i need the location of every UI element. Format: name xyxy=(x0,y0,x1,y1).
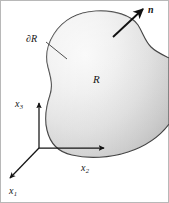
boundary-label: ∂R xyxy=(26,34,37,44)
axis-label-x3-base: x xyxy=(15,98,19,109)
axis-label-x1: x1 xyxy=(9,186,17,196)
axis-label-x3: x3 xyxy=(15,99,23,109)
region-blob-sheen xyxy=(46,11,169,158)
axis-x1 xyxy=(10,148,39,178)
axis-label-x2-subscript: 2 xyxy=(86,167,89,174)
axis-label-x2: x2 xyxy=(81,163,89,173)
axis-label-x2-base: x xyxy=(81,162,85,173)
axis-label-x3-subscript: 3 xyxy=(20,103,23,110)
region-label: R xyxy=(93,74,100,85)
normal-vector-label: n xyxy=(148,5,154,15)
axis-label-x1-subscript: 1 xyxy=(14,190,17,197)
figure-container: n R ∂R x3 x2 x1 xyxy=(0,0,169,203)
boundary-region-letter: R xyxy=(31,33,37,44)
region-blob xyxy=(46,11,169,158)
axis-label-x1-base: x xyxy=(9,185,13,196)
